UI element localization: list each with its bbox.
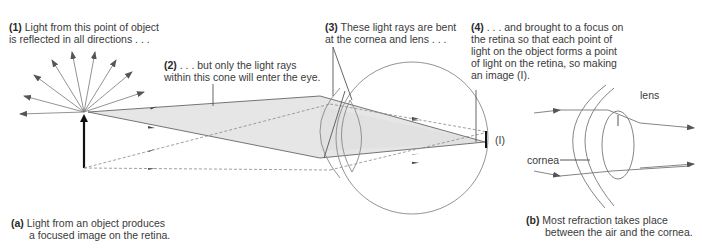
cornea-outer [573, 85, 606, 208]
annotation-1-line1: Light from this point of object [25, 21, 159, 33]
caption-a-tag: (a) [11, 217, 24, 229]
annotation-1: (1) Light from this point of object [9, 21, 159, 33]
annotation-4: (4) . . . and brought to a focus on [471, 21, 623, 33]
annotation-4-line2: the retina so that each point of [471, 33, 612, 45]
annotation-4-line4: of light on the retina, so making [471, 57, 617, 69]
annotation-1-line2: is reflected in all directions . . . [9, 33, 150, 45]
caption-b-tag: (b) [526, 214, 539, 226]
caption-a-line2: a focused image on the retina. [29, 229, 170, 241]
lens-label: lens [640, 89, 659, 101]
annotation-2-line2: within this cone will enter the eye. [164, 71, 320, 83]
annotation-3: (3) These light rays are bent [325, 21, 456, 33]
light-cone [88, 96, 485, 158]
caption-b-line1: Most refraction takes place [542, 214, 667, 226]
radiating-rays [20, 52, 144, 114]
caption-b: (b) Most refraction takes place [526, 214, 668, 226]
panel-b [534, 85, 694, 208]
annotation-4-line1: . . . and brought to a focus on [487, 21, 624, 33]
annotation-3-line2: at the cornea and lens . . . [325, 33, 446, 45]
annotation-1-tag: (1) [9, 21, 22, 33]
annotation-2-line1: . . . but only the light rays [180, 59, 297, 71]
caption-a: (a) Light from an object produces [11, 217, 165, 229]
annotation-4-tag: (4) [471, 21, 484, 33]
annotation-2-tag: (2) [164, 59, 177, 71]
image-label: (I) [495, 134, 505, 146]
caption-b-line2: between the air and the cornea. [545, 226, 693, 238]
annotation-2: (2) . . . but only the light rays [164, 59, 297, 71]
annotation-3-line1: These light rays are bent [341, 21, 457, 33]
annotation-3-tag: (3) [325, 21, 338, 33]
caption-a-line1: Light from an object produces [27, 217, 165, 229]
annotation-4-line3: light on the object forms a point [471, 45, 617, 57]
cornea-label: cornea [527, 154, 559, 166]
annotation-4-line5: an image (I). [471, 69, 530, 81]
